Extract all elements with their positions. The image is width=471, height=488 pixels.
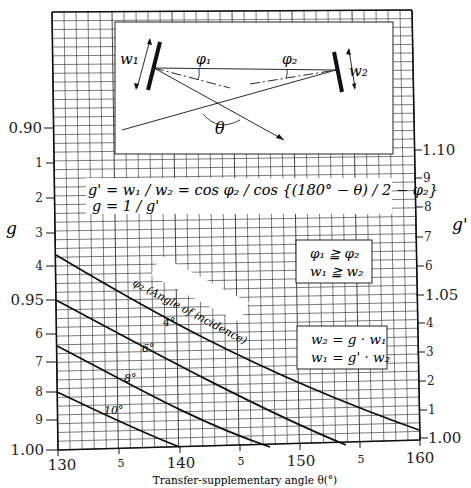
x-tick: 160	[406, 449, 435, 467]
condition-line-1: φ₁ ≧ φ₂	[310, 245, 359, 261]
y-right-tick: 7	[424, 230, 432, 244]
x-tick: 5	[118, 457, 125, 470]
x-tick: 5	[358, 453, 365, 466]
diagram-w1-label: w₁	[120, 50, 139, 68]
diagram-phi1-label: φ₁	[196, 51, 211, 67]
y-left-tick: 0.95	[11, 291, 44, 309]
y-right-tick: 1.00	[428, 429, 461, 447]
y-left-tick: 3	[35, 226, 43, 240]
bottom-axis-labels: 130 5 140 5 150 5 160	[48, 449, 435, 474]
y-left-tick: 1.00	[11, 441, 44, 459]
y-right-tick: 8	[424, 200, 432, 214]
y-right-title: g'	[452, 214, 468, 234]
y-right-tick: 2	[427, 374, 435, 388]
curve-10-label: 10°	[104, 404, 124, 417]
y-right-tick: 9	[423, 171, 431, 185]
formula-line-2: g = 1 / g'	[92, 198, 159, 214]
diagram-w2-label: w₂	[349, 62, 368, 80]
diagram-theta-label: θ	[215, 119, 225, 138]
x-tick: 130	[48, 456, 77, 474]
y-left-tick: 7	[35, 355, 43, 369]
x-tick: 140	[167, 454, 196, 472]
y-left-tick: 4	[35, 259, 43, 273]
y-right-tick: 1.10	[422, 141, 455, 159]
relation-line-2: w₁ = g' · w₂	[311, 349, 390, 365]
diagram-phi2-label: φ₂	[282, 51, 298, 67]
y-left-tick: 2	[35, 191, 43, 205]
y-right-tick: 6	[425, 259, 433, 273]
x-axis-title: Transfer-supplementary angle θ(°)	[153, 474, 337, 486]
y-right-tick: 1	[428, 403, 436, 417]
formula-line-1: g' = w₁ / w₂ = cos φ₂ / cos {(180° − θ) …	[88, 182, 438, 198]
chart-canvas: w₁ w₂ φ₁ φ₂ θ g' = w₁ / w₂ = cos φ₂ / co…	[0, 0, 471, 488]
curve-6-label: 6°	[142, 342, 155, 355]
y-right-tick: 1.05	[425, 286, 458, 304]
relation-line-1: w₂ = g · w₁	[311, 331, 386, 347]
y-right-tick: 4	[426, 316, 434, 330]
y-left-tick: 9	[35, 413, 43, 427]
y-left-tick: 1	[35, 156, 43, 170]
y-right-tick: 3	[426, 345, 434, 359]
y-left-tick: 8	[35, 385, 43, 399]
y-left-tick: 0.90	[9, 119, 42, 137]
x-tick: 5	[238, 455, 245, 468]
x-tick: 150	[287, 452, 316, 470]
curve-4-label: 4°	[162, 316, 176, 329]
y-left-title: g	[6, 218, 17, 238]
left-axis-labels: 0.90 1 2 3 4 0.95 6 7 8 9 1.00	[9, 119, 44, 459]
condition-line-2: w₁ ≧ w₂	[310, 263, 364, 279]
diagram-panel	[115, 22, 393, 154]
y-left-tick: 6	[35, 327, 43, 341]
curve-8-label: 8°	[124, 372, 137, 385]
